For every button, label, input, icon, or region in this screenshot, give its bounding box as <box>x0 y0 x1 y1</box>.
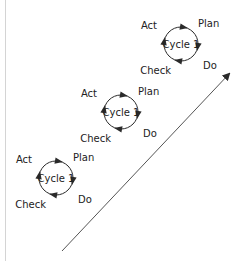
label-act: Act <box>16 154 32 165</box>
pdca-diagram: Cycle 1ActPlanDoCheck Cycle 1ActPlanDoCh… <box>0 0 246 261</box>
label-act: Act <box>81 88 97 99</box>
arrow-top-icon <box>119 91 128 99</box>
cycle-top: Cycle 1ActPlanDoCheck <box>140 18 219 76</box>
cycle-center-label: Cycle 1 <box>38 173 75 184</box>
cycle-bottom: Cycle 1ActPlanDoCheck <box>15 152 94 210</box>
arrow-bottom-icon <box>174 57 183 65</box>
label-plan: Plan <box>73 152 94 163</box>
label-plan: Plan <box>138 86 159 97</box>
arrow-top-icon <box>179 23 188 31</box>
arrow-bottom-icon <box>114 125 123 133</box>
label-act: Act <box>141 20 157 31</box>
label-check: Check <box>80 133 111 144</box>
label-check: Check <box>140 65 171 76</box>
arrow-top-icon <box>54 157 63 165</box>
label-do: Do <box>78 194 92 205</box>
cycle-center-label: Cycle 1 <box>103 107 140 118</box>
cycle-center-label: Cycle 1 <box>163 39 200 50</box>
label-do: Do <box>143 128 157 139</box>
cycle-middle: Cycle 1ActPlanDoCheck <box>80 86 159 144</box>
arrow-bottom-icon <box>49 191 58 199</box>
label-check: Check <box>15 199 46 210</box>
label-do: Do <box>203 60 217 71</box>
label-plan: Plan <box>198 18 219 29</box>
